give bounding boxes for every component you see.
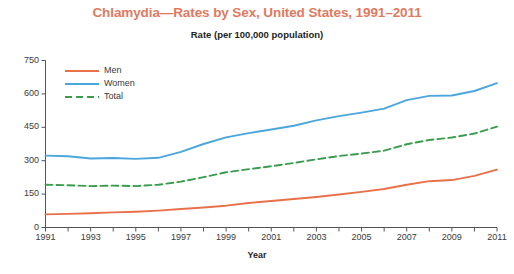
x-tick-label: 2003 bbox=[296, 232, 336, 242]
y-tick-label: 450 bbox=[5, 121, 39, 131]
data-series bbox=[46, 83, 498, 214]
x-tick-label: 1995 bbox=[116, 232, 156, 242]
legend-label-men: Men bbox=[104, 65, 122, 75]
series-line-men bbox=[46, 170, 498, 215]
legend-label-total: Total bbox=[104, 91, 123, 101]
y-tick-label: 150 bbox=[5, 188, 39, 198]
x-tick-label: 1993 bbox=[71, 232, 111, 242]
x-tick-label: 2005 bbox=[342, 232, 382, 242]
x-tick-label: 1999 bbox=[206, 232, 246, 242]
y-tick-label: 0 bbox=[5, 222, 39, 232]
x-tick-label: 1997 bbox=[161, 232, 201, 242]
legend-label-women: Women bbox=[104, 78, 135, 88]
x-tick-label: 2009 bbox=[432, 232, 472, 242]
y-tick-label: 750 bbox=[5, 55, 39, 65]
x-tick-label: 2001 bbox=[251, 232, 291, 242]
legend-marks bbox=[65, 71, 99, 97]
x-tick-label: 2007 bbox=[387, 232, 427, 242]
chart-figure: Chlamydia—Rates by Sex, United States, 1… bbox=[0, 0, 514, 274]
y-tick-label: 600 bbox=[5, 88, 39, 98]
series-line-total bbox=[46, 127, 498, 186]
y-tick-label: 300 bbox=[5, 155, 39, 165]
x-tick-label: 2011 bbox=[477, 232, 514, 242]
x-tick-label: 1991 bbox=[26, 232, 66, 242]
x-axis-title: Year bbox=[0, 250, 514, 260]
